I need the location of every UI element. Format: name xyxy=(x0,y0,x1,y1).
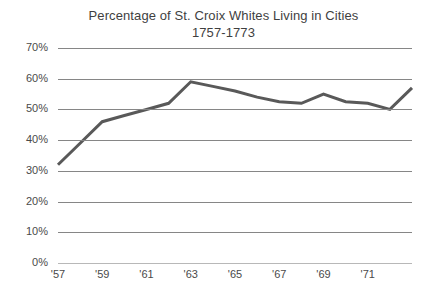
x-axis-tick-label: '57 xyxy=(51,268,65,280)
y-axis-tick-label: 0% xyxy=(2,257,48,268)
plot-area xyxy=(58,48,412,263)
x-axis: '57'59'61'63'65'67'69'71 xyxy=(58,268,412,288)
y-axis: 0%10%20%30%40%50%60%70% xyxy=(0,48,48,263)
x-axis-tick-label: '69 xyxy=(316,268,330,280)
gridline-0pct xyxy=(58,263,412,264)
y-axis-tick-label: 60% xyxy=(2,73,48,84)
y-axis-tick-label: 20% xyxy=(2,196,48,207)
chart-title: Percentage of St. Croix Whites Living in… xyxy=(0,7,447,41)
gridline-10pct xyxy=(58,232,412,233)
x-axis-tick-label: '65 xyxy=(228,268,242,280)
gridline-50pct xyxy=(58,109,412,110)
x-axis-tick-label: '61 xyxy=(139,268,153,280)
gridline-40pct xyxy=(58,140,412,141)
y-axis-tick-label: 70% xyxy=(2,42,48,53)
chart-container: Percentage of St. Croix Whites Living in… xyxy=(0,0,447,302)
x-axis-tick-label: '67 xyxy=(272,268,286,280)
gridline-30pct xyxy=(58,171,412,172)
x-axis-tick-label: '59 xyxy=(95,268,109,280)
chart-title-main: Percentage of St. Croix Whites Living in… xyxy=(89,8,359,23)
y-axis-tick-label: 10% xyxy=(2,226,48,237)
y-axis-tick-label: 30% xyxy=(2,165,48,176)
gridline-60pct xyxy=(58,79,412,80)
chart-title-subtitle: 1757-1773 xyxy=(0,24,447,41)
series-line-chart xyxy=(58,48,412,263)
y-axis-tick-label: 40% xyxy=(2,134,48,145)
x-axis-tick-label: '63 xyxy=(184,268,198,280)
series-line-percentage-whites-in-cities xyxy=(58,82,412,165)
gridline-70pct xyxy=(58,48,412,49)
y-axis-tick-label: 50% xyxy=(2,103,48,114)
x-axis-tick-label: '71 xyxy=(361,268,375,280)
gridline-20pct xyxy=(58,202,412,203)
